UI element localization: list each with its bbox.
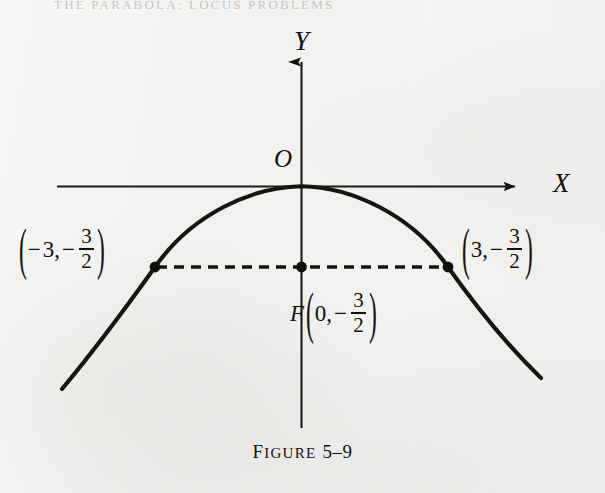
close-paren: ) (369, 285, 377, 341)
open-paren: ( (462, 221, 470, 277)
caption-number: 5–9 (323, 441, 353, 462)
fraction-denominator: 2 (508, 251, 521, 272)
focus-x-value: 0 (315, 302, 327, 325)
left-x-minus-sign: − (28, 238, 41, 261)
left-y-fraction: 3 2 (79, 226, 94, 272)
right-x-value: 3 (471, 238, 483, 261)
fraction-numerator: 3 (80, 226, 93, 247)
comma: , (54, 238, 60, 261)
left-point-expression: ( − 3 , − 3 2 ) (18, 226, 106, 272)
focus-point-name: F (290, 302, 304, 325)
focus-y-minus-sign: − (334, 302, 347, 325)
left-y-minus-sign: − (62, 238, 75, 261)
point-marker-left (150, 262, 161, 273)
focus-y-fraction: 3 2 (351, 290, 366, 336)
y-axis-label: Y (294, 28, 309, 55)
right-point-label: ( 3 , − 3 2 ) (461, 226, 534, 272)
open-paren: ( (306, 285, 314, 341)
right-y-minus-sign: − (490, 238, 503, 261)
comma: , (326, 302, 332, 325)
figure-caption: FIGURE5–9 (0, 441, 605, 463)
fraction-numerator: 3 (508, 226, 521, 247)
open-paren: ( (19, 221, 27, 277)
focus-label: F ( 0 , − 3 2 ) (290, 290, 378, 336)
right-point-expression: ( 3 , − 3 2 ) (461, 226, 534, 272)
left-point-label: ( − 3 , − 3 2 ) (18, 226, 106, 272)
close-paren: ) (525, 221, 533, 277)
fraction-numerator: 3 (352, 290, 365, 311)
focus-expression: F ( 0 , − 3 2 ) (290, 290, 378, 336)
fraction-denominator: 2 (352, 315, 365, 336)
x-axis-label: X (553, 170, 570, 197)
caption-first-letter: F (253, 441, 265, 462)
close-paren: ) (97, 221, 105, 277)
fraction-denominator: 2 (80, 251, 93, 272)
caption-word-rest: IGURE (264, 445, 316, 461)
point-marker-right (443, 262, 454, 273)
right-y-fraction: 3 2 (507, 226, 522, 272)
origin-label: O (274, 146, 292, 171)
figure-page: THE PARABOLA; LOCUS PROBLEMS Y X O (0, 0, 605, 493)
comma: , (482, 238, 488, 261)
point-marker-focus (296, 262, 307, 273)
left-x-value: 3 (43, 238, 55, 261)
